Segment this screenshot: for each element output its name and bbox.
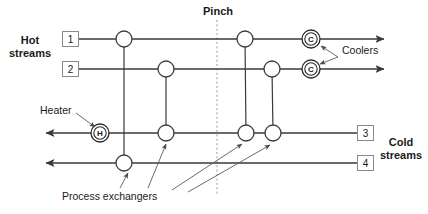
exchanger-coupling-c: [245, 39, 246, 133]
process-exchanger-d-cold[interactable]: [265, 125, 281, 141]
heater-icon[interactable]: H: [91, 124, 109, 142]
cooler-symbol-2: C: [308, 65, 314, 74]
heater-label: Heater: [40, 104, 72, 116]
stream-box-3[interactable]: 3: [357, 125, 374, 141]
stream-box-4[interactable]: 4: [357, 155, 374, 171]
stream-box-1-label: 1: [68, 34, 74, 45]
process-exchanger-b-cold[interactable]: [158, 125, 174, 141]
process-exchanger-a-hot[interactable]: [116, 31, 132, 47]
cooler-symbol-1: C: [308, 35, 314, 44]
exchanger-coupling-d: [272, 69, 273, 133]
leader-line-cooler-1: [321, 46, 338, 57]
cold-streams-label: Cold streams: [374, 136, 428, 162]
stream-box-3-label: 3: [363, 128, 369, 139]
stream-box-2[interactable]: 2: [62, 61, 79, 77]
cold-streams-label-line1: Cold: [374, 136, 428, 149]
stream-box-1[interactable]: 1: [62, 31, 79, 47]
process-exchanger-c-cold[interactable]: [238, 125, 254, 141]
coolers-label: Coolers: [342, 44, 378, 56]
hot-streams-label-line1: Hot: [2, 34, 58, 47]
stream-box-4-label: 4: [363, 158, 369, 169]
stream-box-2-label: 2: [68, 64, 74, 75]
heat-exchanger-network-diagram: C C H 1 2 3 4 Pinch Hot: [0, 0, 428, 214]
cooler-icon-2[interactable]: C: [302, 60, 320, 78]
pinch-label: Pinch: [192, 5, 244, 18]
process-exchanger-c-hot[interactable]: [237, 31, 253, 47]
heater-symbol: H: [97, 129, 103, 138]
cooler-icon-1[interactable]: C: [302, 30, 320, 48]
cold-streams-label-line2: streams: [374, 149, 428, 162]
leader-line-exchanger-1: [120, 173, 128, 188]
hot-streams-label: Hot streams: [2, 34, 58, 60]
hot-streams-label-line2: streams: [2, 47, 58, 60]
process-exchangers-label: Process exchangers: [62, 190, 157, 202]
process-exchanger-d-hot[interactable]: [264, 61, 280, 77]
process-exchanger-a-cold[interactable]: [116, 155, 132, 171]
leader-line-heater: [76, 113, 95, 127]
leader-line-cooler-2: [320, 57, 338, 64]
leader-line-exchanger-2: [148, 144, 166, 188]
process-exchanger-b-hot[interactable]: [158, 61, 174, 77]
